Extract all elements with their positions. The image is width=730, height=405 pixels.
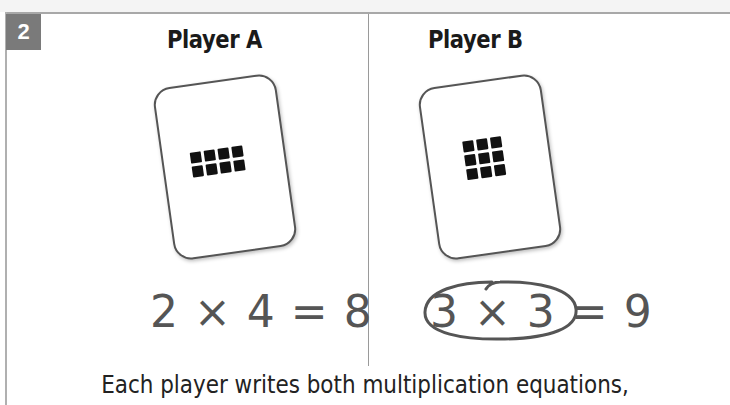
dot xyxy=(480,166,492,178)
player-b-dot-array xyxy=(462,136,506,180)
dot xyxy=(231,145,243,157)
dot xyxy=(466,168,478,180)
activity-step-panel: 2 Player A 2 × 4 = 8 Player B 3 × xyxy=(0,0,730,405)
player-b-title: Player B xyxy=(428,26,523,54)
dot xyxy=(204,149,216,161)
dot xyxy=(219,161,231,173)
player-a-dot-array xyxy=(190,145,246,177)
dot xyxy=(464,154,476,166)
player-b-card xyxy=(416,72,563,262)
step-number-badge: 2 xyxy=(6,14,41,50)
hand-drawn-circle-icon xyxy=(420,276,580,344)
dot xyxy=(494,164,506,176)
dot xyxy=(192,165,204,177)
dot xyxy=(190,151,202,163)
dot xyxy=(492,150,504,162)
instruction-caption: Each player writes both multiplication e… xyxy=(51,370,679,399)
panel-left-border xyxy=(5,12,7,405)
dot xyxy=(462,140,474,152)
dot xyxy=(233,159,245,171)
dot xyxy=(478,152,490,164)
dot xyxy=(205,163,217,175)
player-a-card xyxy=(151,72,298,262)
player-a-title: Player A xyxy=(167,26,262,54)
dot xyxy=(217,147,229,159)
dot xyxy=(490,136,502,148)
player-a-equation: 2 × 4 = 8 xyxy=(150,286,373,337)
dot xyxy=(476,138,488,150)
page-top-margin xyxy=(0,0,730,12)
